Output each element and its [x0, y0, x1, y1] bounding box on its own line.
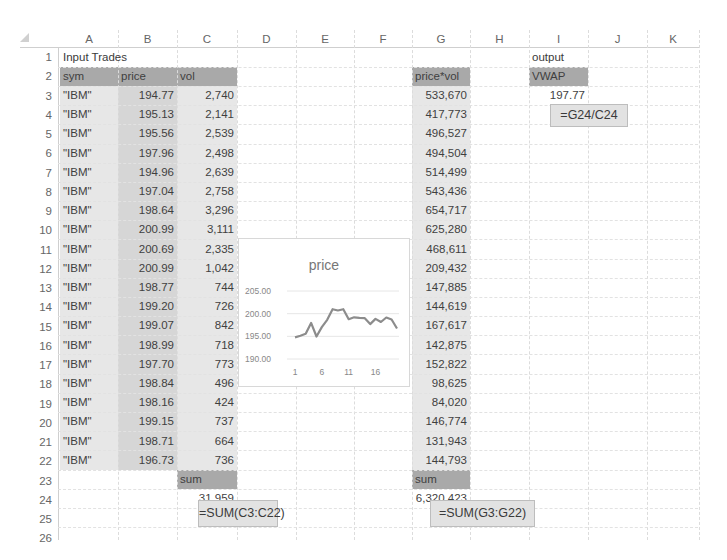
cell-price-vol[interactable]: 144,619 — [412, 297, 470, 316]
cell-vol[interactable]: 2,639 — [177, 163, 237, 182]
column-header-d[interactable]: D — [237, 30, 296, 48]
header-vol[interactable]: vol — [177, 67, 237, 86]
cell-sym[interactable]: "IBM" — [60, 220, 118, 239]
vol-sum-label[interactable]: sum — [177, 470, 237, 489]
row-header-7[interactable]: 7 — [16, 164, 58, 183]
cell-vol[interactable]: 2,498 — [177, 144, 237, 163]
cell-sym[interactable]: "IBM" — [60, 201, 118, 220]
cell-sym[interactable]: "IBM" — [60, 412, 118, 431]
row-header-1[interactable]: 1 — [16, 48, 58, 67]
cell-vol[interactable]: 2,539 — [177, 124, 237, 143]
cell-sym[interactable]: "IBM" — [60, 297, 118, 316]
cell-price-vol[interactable]: 142,875 — [412, 336, 470, 355]
cell-sym[interactable]: "IBM" — [60, 163, 118, 182]
row-header-15[interactable]: 15 — [16, 318, 58, 337]
row-header-3[interactable]: 3 — [16, 87, 58, 106]
cell-price-vol[interactable]: 468,611 — [412, 240, 470, 259]
cell-sym[interactable]: "IBM" — [60, 259, 118, 278]
cell-price[interactable]: 197.96 — [118, 144, 177, 163]
row-header-10[interactable]: 10 — [16, 221, 58, 240]
row-header-24[interactable]: 24 — [16, 491, 58, 510]
cell-price[interactable]: 197.70 — [118, 355, 177, 374]
cell-sym[interactable]: "IBM" — [60, 240, 118, 259]
cell-sym[interactable]: "IBM" — [60, 336, 118, 355]
cell-vol[interactable]: 1,042 — [177, 259, 237, 278]
input-trades-title[interactable]: Input Trades — [60, 48, 130, 67]
cell-price-vol[interactable]: 209,432 — [412, 259, 470, 278]
cell-price-vol[interactable]: 494,504 — [412, 144, 470, 163]
row-header-16[interactable]: 16 — [16, 337, 58, 356]
column-header-i[interactable]: I — [529, 30, 588, 48]
cell-vol[interactable]: 3,296 — [177, 201, 237, 220]
cell-vol[interactable]: 2,758 — [177, 182, 237, 201]
cell-vol[interactable]: 664 — [177, 432, 237, 451]
cell-price[interactable]: 197.04 — [118, 182, 177, 201]
cell-vol[interactable]: 718 — [177, 336, 237, 355]
pricevol-sum-label[interactable]: sum — [412, 470, 470, 489]
cell-price-vol[interactable]: 533,670 — [412, 86, 470, 105]
row-header-17[interactable]: 17 — [16, 356, 58, 375]
cell-price[interactable]: 195.56 — [118, 124, 177, 143]
cell-price[interactable]: 199.07 — [118, 316, 177, 335]
cell-sym[interactable]: "IBM" — [60, 374, 118, 393]
cell-price-vol[interactable]: 167,617 — [412, 316, 470, 335]
column-header-e[interactable]: E — [296, 30, 354, 48]
cell-price-vol[interactable]: 496,527 — [412, 124, 470, 143]
cell-price[interactable]: 198.99 — [118, 336, 177, 355]
row-header-4[interactable]: 4 — [16, 106, 58, 125]
cell-sym[interactable]: "IBM" — [60, 105, 118, 124]
row-header-8[interactable]: 8 — [16, 183, 58, 202]
cell-price[interactable]: 198.71 — [118, 432, 177, 451]
cell-vol[interactable]: 842 — [177, 316, 237, 335]
cell-sym[interactable]: "IBM" — [60, 182, 118, 201]
cell-vol[interactable]: 496 — [177, 374, 237, 393]
select-all-corner[interactable] — [20, 33, 29, 42]
cell-sym[interactable]: "IBM" — [60, 144, 118, 163]
row-header-22[interactable]: 22 — [16, 452, 58, 471]
cell-sym[interactable]: "IBM" — [60, 451, 118, 470]
cell-price-vol[interactable]: 131,943 — [412, 432, 470, 451]
cell-vol[interactable]: 744 — [177, 278, 237, 297]
cell-price-vol[interactable]: 654,717 — [412, 201, 470, 220]
cell-price-vol[interactable]: 84,020 — [412, 393, 470, 412]
cell-price[interactable]: 198.84 — [118, 374, 177, 393]
row-header-9[interactable]: 9 — [16, 202, 58, 221]
column-header-c[interactable]: C — [177, 30, 237, 48]
row-header-2[interactable]: 2 — [16, 67, 58, 86]
cell-vol[interactable]: 424 — [177, 393, 237, 412]
row-header-25[interactable]: 25 — [16, 510, 58, 529]
row-header-5[interactable]: 5 — [16, 125, 58, 144]
row-header-13[interactable]: 13 — [16, 279, 58, 298]
cell-price-vol[interactable]: 625,280 — [412, 220, 470, 239]
row-header-14[interactable]: 14 — [16, 298, 58, 317]
cell-vol[interactable]: 2,335 — [177, 240, 237, 259]
cell-vol[interactable]: 3,111 — [177, 220, 237, 239]
cell-vol[interactable]: 737 — [177, 412, 237, 431]
cell-price-vol[interactable]: 147,885 — [412, 278, 470, 297]
column-header-a[interactable]: A — [60, 30, 118, 48]
cell-vol[interactable]: 2,740 — [177, 86, 237, 105]
cell-price[interactable]: 195.13 — [118, 105, 177, 124]
cell-price[interactable]: 198.16 — [118, 393, 177, 412]
cell-price[interactable]: 196.73 — [118, 451, 177, 470]
row-header-23[interactable]: 23 — [16, 472, 58, 491]
row-header-20[interactable]: 20 — [16, 414, 58, 433]
cell-price[interactable]: 200.99 — [118, 259, 177, 278]
row-header-18[interactable]: 18 — [16, 375, 58, 394]
cell-sym[interactable]: "IBM" — [60, 432, 118, 451]
price-line-chart[interactable]: price 190.00195.00200.00205.00 161116 — [238, 238, 410, 387]
cell-vol[interactable]: 726 — [177, 297, 237, 316]
cell-vol[interactable]: 736 — [177, 451, 237, 470]
cell-price-vol[interactable]: 98,625 — [412, 374, 470, 393]
cell-price-vol[interactable]: 152,822 — [412, 355, 470, 374]
cell-price[interactable]: 200.69 — [118, 240, 177, 259]
cell-sym[interactable]: "IBM" — [60, 355, 118, 374]
cell-price[interactable]: 194.77 — [118, 86, 177, 105]
cell-price[interactable]: 200.99 — [118, 220, 177, 239]
header-vwap[interactable]: VWAP — [529, 67, 588, 86]
cell-sym[interactable]: "IBM" — [60, 316, 118, 335]
row-header-19[interactable]: 19 — [16, 395, 58, 414]
header-sym[interactable]: sym — [60, 67, 118, 86]
row-header-6[interactable]: 6 — [16, 144, 58, 163]
output-title[interactable]: output — [529, 48, 567, 67]
